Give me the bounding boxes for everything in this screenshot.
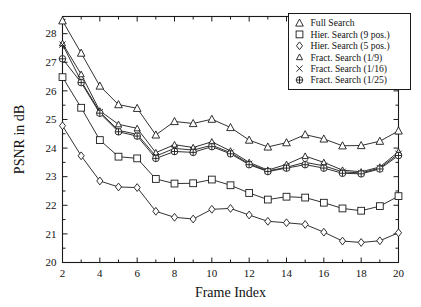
data-point	[78, 79, 85, 86]
data-point	[171, 148, 178, 155]
data-point	[246, 190, 253, 197]
y-tick-label: 23	[46, 170, 58, 182]
data-point	[246, 211, 252, 219]
data-point	[283, 219, 289, 227]
legend-label: Fract. Search (1/25)	[311, 74, 387, 86]
x-axis-title: Frame Index	[195, 285, 266, 300]
data-point	[227, 123, 235, 130]
data-point	[395, 229, 401, 237]
data-point	[395, 127, 403, 134]
y-tick-label: 20	[46, 256, 58, 268]
data-point	[377, 166, 384, 173]
data-point	[246, 161, 253, 168]
data-point	[302, 194, 309, 201]
y-tick-label: 28	[46, 27, 58, 39]
data-point	[208, 115, 216, 122]
legend-item-3: Hier. Search (5 pos.)	[296, 40, 389, 52]
data-point	[320, 199, 327, 206]
y-tick-label: 27	[46, 56, 58, 68]
data-point	[377, 237, 383, 245]
y-axis-title: PSNR in dB	[12, 105, 27, 174]
data-point	[208, 176, 215, 183]
data-point	[97, 110, 104, 117]
data-point	[115, 128, 122, 135]
data-point	[78, 104, 85, 111]
legend: Full SearchHier. Search (9 pos.)Hier. Se…	[289, 14, 411, 90]
x-tick-label: 14	[281, 267, 293, 279]
x-tick-label: 16	[318, 267, 330, 279]
x-tick-label: 6	[134, 267, 140, 279]
y-tick-label: 21	[46, 228, 57, 240]
data-point	[96, 137, 103, 144]
data-point	[302, 161, 309, 168]
data-point	[59, 74, 66, 81]
y-tick-label: 22	[46, 199, 57, 211]
data-point	[227, 205, 233, 213]
legend-marker	[296, 77, 303, 84]
data-point	[77, 49, 85, 56]
data-point	[153, 155, 160, 162]
legend-item-2: Hier. Search (9 pos.)	[296, 29, 390, 41]
data-point	[227, 182, 234, 189]
x-tick-label: 4	[97, 267, 103, 279]
data-point	[209, 143, 216, 150]
data-point	[358, 171, 365, 178]
data-point	[245, 136, 253, 143]
x-tick-label: 20	[393, 267, 405, 279]
legend-label: Hier. Search (9 pos.)	[311, 29, 390, 41]
data-point	[376, 203, 383, 210]
data-point	[209, 205, 215, 213]
data-point	[96, 82, 104, 89]
data-point	[227, 151, 234, 158]
data-point	[302, 153, 308, 159]
data-point	[339, 170, 346, 177]
x-tick-label: 8	[172, 267, 178, 279]
data-point	[190, 180, 197, 187]
data-point	[59, 56, 66, 63]
data-point	[321, 165, 328, 172]
psnr-line-chart: 2468101214161820202122232425262728 Frame…	[0, 0, 421, 307]
data-point	[190, 215, 196, 223]
legend-label: Fract. Search (1/16)	[311, 63, 387, 75]
data-point	[283, 139, 291, 146]
x-tick-label: 18	[356, 267, 368, 279]
data-point	[283, 165, 290, 172]
data-point	[265, 217, 271, 225]
data-point	[395, 152, 402, 159]
data-point	[115, 121, 121, 127]
data-point	[339, 237, 345, 245]
data-point	[115, 183, 121, 191]
y-tick-label: 26	[46, 85, 58, 97]
data-point	[301, 131, 309, 138]
data-point	[171, 213, 177, 221]
legend-label: Hier. Search (5 pos.)	[311, 40, 390, 52]
legend-label: Full Search	[311, 17, 355, 28]
data-point	[264, 196, 271, 203]
data-point	[265, 168, 272, 175]
data-point	[134, 133, 141, 140]
chart-figure: 2468101214161820202122232425262728 Frame…	[0, 0, 421, 307]
data-point	[376, 137, 384, 144]
data-point	[152, 176, 159, 183]
data-point	[171, 180, 178, 187]
data-point	[171, 117, 179, 124]
data-point	[358, 207, 365, 214]
y-tick-label: 24	[46, 142, 58, 154]
x-tick-label: 2	[60, 267, 66, 279]
data-point	[283, 193, 290, 200]
data-point	[134, 155, 141, 162]
data-point	[59, 17, 67, 24]
data-point	[190, 149, 197, 156]
x-tick-label: 12	[244, 267, 255, 279]
series-line	[63, 77, 399, 211]
data-point	[395, 193, 402, 200]
data-point	[321, 228, 327, 236]
data-point	[358, 239, 364, 247]
legend-item-5: Fract. Search (1/16)	[296, 63, 387, 75]
data-point	[115, 153, 122, 160]
data-point	[78, 71, 84, 77]
x-tick-label: 10	[206, 267, 218, 279]
data-point	[302, 221, 308, 229]
data-point	[152, 131, 160, 138]
y-tick-label: 25	[46, 113, 58, 125]
